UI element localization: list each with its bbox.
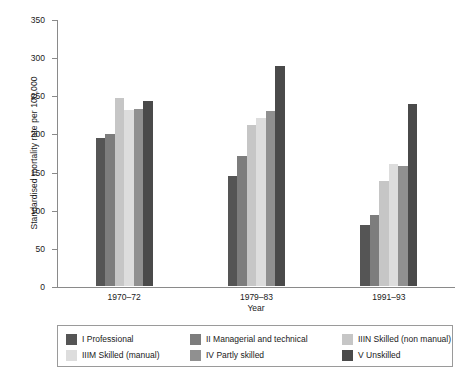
- legend-swatch: [342, 350, 353, 361]
- plot-area: 050100150200250300350 1970–721979–831991…: [57, 20, 455, 287]
- bar[interactable]: [275, 66, 285, 286]
- legend-item[interactable]: I Professional: [66, 334, 190, 345]
- legend-item[interactable]: IIIN Skilled (non manual): [342, 334, 451, 345]
- legend-item[interactable]: II Managerial and technical: [190, 334, 342, 345]
- bar[interactable]: [228, 176, 238, 286]
- bar[interactable]: [389, 164, 399, 286]
- x-axis-title: Year: [57, 303, 455, 313]
- y-tick: 100: [52, 211, 57, 212]
- legend-label: IIIN Skilled (non manual): [358, 334, 451, 344]
- bar-groups: 1970–721979–831991–93: [58, 20, 455, 286]
- legend-swatch: [342, 334, 353, 345]
- legend-swatch: [66, 334, 77, 345]
- y-tick-label: 250: [31, 92, 45, 101]
- bar[interactable]: [266, 111, 276, 286]
- x-axis-line: [57, 287, 455, 288]
- y-tick-label: 300: [31, 54, 45, 63]
- y-tick-label: 50: [36, 245, 45, 254]
- y-tick: 300: [52, 58, 57, 59]
- bar[interactable]: [379, 181, 389, 286]
- bar[interactable]: [115, 98, 125, 286]
- bar-group: 1979–83: [190, 20, 322, 286]
- bar[interactable]: [256, 118, 266, 286]
- y-tick: 350: [52, 20, 57, 21]
- y-tick-label: 0: [40, 283, 45, 292]
- chart-container: Standardised mortality rate per 100,000 …: [0, 0, 464, 372]
- legend: I ProfessionalII Managerial and technica…: [57, 325, 453, 367]
- legend-label: I Professional: [82, 334, 134, 344]
- bar[interactable]: [360, 225, 370, 286]
- bar[interactable]: [96, 138, 106, 286]
- y-tick-label: 350: [31, 16, 45, 25]
- bar[interactable]: [398, 166, 408, 286]
- bar[interactable]: [143, 101, 153, 286]
- bar-group: 1991–93: [323, 20, 455, 286]
- bar[interactable]: [247, 125, 257, 286]
- legend-item[interactable]: IIIM Skilled (manual): [66, 350, 190, 361]
- y-tick: 0: [52, 287, 57, 288]
- bar[interactable]: [124, 110, 134, 286]
- x-tick-label: 1970–72: [58, 292, 190, 302]
- y-tick-label: 200: [31, 130, 45, 139]
- legend-item[interactable]: IV Partly skilled: [190, 350, 342, 361]
- bar[interactable]: [370, 215, 380, 286]
- bar[interactable]: [237, 156, 247, 286]
- bar[interactable]: [134, 109, 144, 286]
- bar[interactable]: [408, 104, 418, 286]
- y-tick-label: 150: [31, 168, 45, 177]
- y-tick: 50: [52, 249, 57, 250]
- x-tick-label: 1991–93: [323, 292, 455, 302]
- legend-label: II Managerial and technical: [206, 334, 308, 344]
- y-tick: 250: [52, 96, 57, 97]
- legend-label: V Unskilled: [358, 350, 401, 360]
- legend-swatch: [190, 334, 201, 345]
- legend-swatch: [66, 350, 77, 361]
- legend-item[interactable]: V Unskilled: [342, 350, 451, 361]
- bar-group: 1970–72: [58, 20, 190, 286]
- legend-label: IIIM Skilled (manual): [82, 350, 159, 360]
- y-tick: 150: [52, 173, 57, 174]
- bar[interactable]: [105, 134, 115, 286]
- y-tick-label: 100: [31, 206, 45, 215]
- legend-swatch: [190, 350, 201, 361]
- x-tick-label: 1979–83: [190, 292, 322, 302]
- y-tick: 200: [52, 134, 57, 135]
- legend-label: IV Partly skilled: [206, 350, 264, 360]
